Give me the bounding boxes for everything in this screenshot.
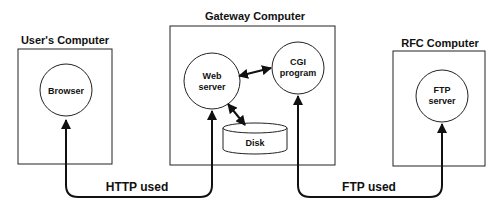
web-gateway-diagram: User's Computer Browser Gateway Computer…: [0, 0, 503, 211]
rfc-computer-title: RFC Computer: [401, 37, 479, 49]
web-cgi-arrow: [239, 68, 271, 76]
ftp-server-label-1: FTP: [434, 85, 451, 95]
cgi-label-1: CGI: [290, 57, 306, 67]
gateway-computer-box: Gateway Computer Web server CGI program …: [170, 10, 335, 165]
ftp-used-label: FTP used: [342, 180, 396, 194]
disk-node: Disk: [223, 123, 287, 154]
http-used-label: HTTP used: [106, 180, 168, 194]
ftp-server-label-2: server: [428, 96, 456, 106]
users-computer-title: User's Computer: [21, 34, 110, 46]
rfc-computer-box: RFC Computer FTP server: [393, 37, 485, 166]
disk-label: Disk: [245, 138, 265, 148]
browser-label: Browser: [48, 86, 85, 96]
web-server-node: [184, 53, 240, 109]
cgi-label-2: program: [280, 68, 317, 78]
web-server-label-1: Web: [203, 71, 222, 81]
web-server-label-2: server: [198, 82, 226, 92]
web-disk-arrow: [228, 104, 245, 125]
gateway-computer-title: Gateway Computer: [205, 10, 306, 22]
